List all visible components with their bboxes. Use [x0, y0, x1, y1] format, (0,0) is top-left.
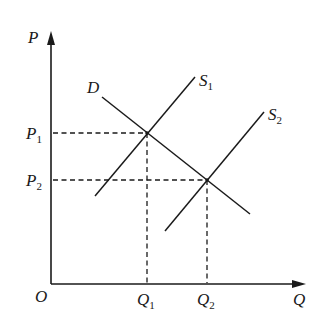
y-axis-label: P: [27, 28, 38, 47]
x-axis-arrow-icon: [292, 280, 306, 288]
equilibrium-point-2: [205, 178, 209, 182]
axes: [47, 31, 306, 288]
p1-label: P1: [25, 124, 42, 145]
demand-label: D: [86, 78, 100, 97]
q1-label: Q1: [137, 290, 155, 311]
origin-label: O: [35, 287, 47, 306]
curves: [95, 77, 264, 231]
y-axis-arrow-icon: [47, 31, 55, 45]
s1-label: S1: [199, 71, 213, 92]
p2-label: P2: [25, 171, 42, 192]
x-axis-label: Q: [293, 290, 305, 309]
supply-curve-s1: [95, 77, 195, 196]
s2-label: S2: [268, 105, 282, 126]
equilibrium-point-1: [145, 131, 149, 135]
supply-demand-diagram: P Q O D S1 S2 P1 P2 Q1 Q2: [0, 0, 325, 333]
q2-label: Q2: [197, 290, 215, 311]
